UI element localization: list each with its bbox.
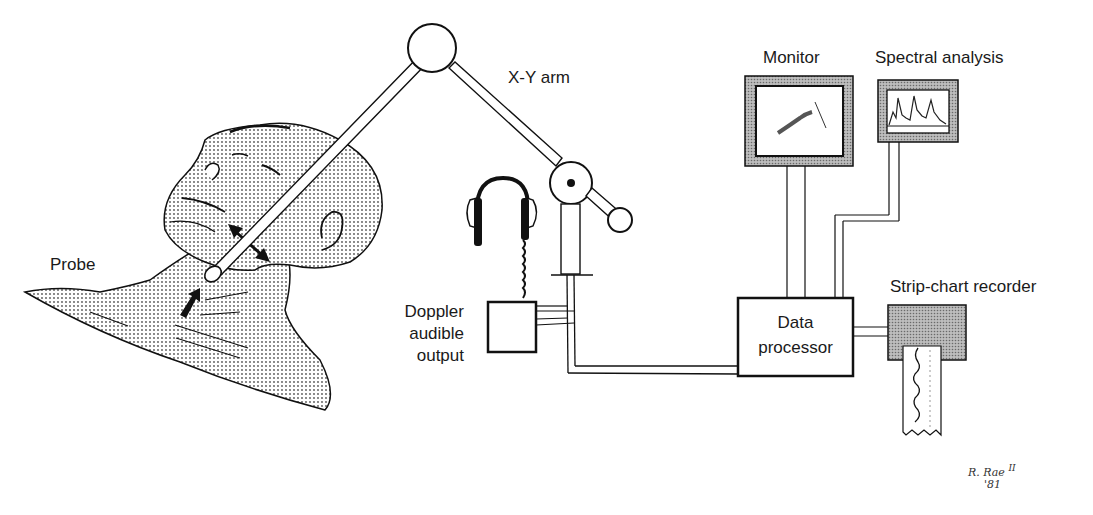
strip-chart-recorder-device: [853, 305, 966, 435]
label-spectral-analysis: Spectral analysis: [875, 47, 1004, 68]
label-doppler-line2: audible: [386, 323, 464, 344]
label-strip-chart-recorder: Strip-chart recorder: [890, 276, 1036, 297]
monitor-device: [745, 76, 853, 298]
artist-signature: R. Rae II: [968, 462, 1016, 479]
signature-suffix: II: [1008, 462, 1015, 473]
label-monitor: Monitor: [763, 47, 820, 68]
label-doppler-line1: Doppler: [386, 301, 464, 322]
arm-post: [561, 204, 580, 274]
patient-head: [164, 123, 382, 270]
arm-top-joint: [408, 24, 456, 72]
signature-year: '81: [984, 478, 1001, 491]
label-data-processor-line2: processor: [738, 337, 853, 358]
headphones-icon: [467, 178, 537, 298]
signature-name: R. Rae: [968, 466, 1005, 479]
chart-paper: [903, 346, 941, 435]
label-doppler-line3: output: [386, 345, 464, 366]
label-xy-arm: X-Y arm: [508, 67, 570, 88]
label-probe: Probe: [50, 254, 95, 275]
counterweight: [608, 208, 632, 232]
label-data-processor-line1: Data: [738, 312, 853, 333]
doppler-audible-output-box: [488, 302, 574, 352]
